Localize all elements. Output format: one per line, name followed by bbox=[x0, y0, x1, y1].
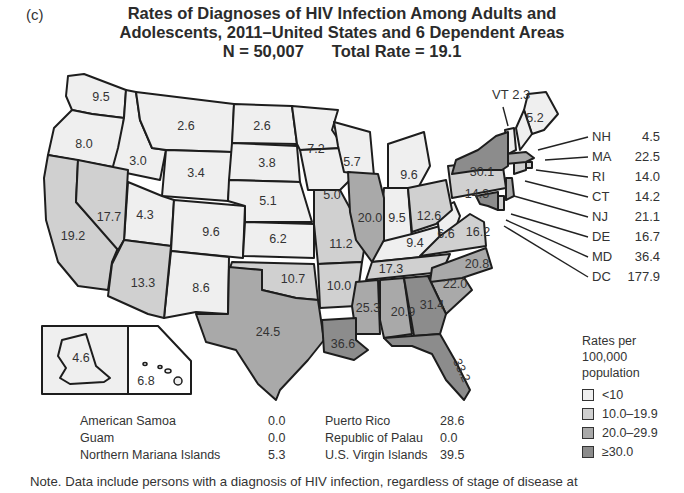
label-OH: 12.6 bbox=[417, 209, 441, 223]
label-AZ: 13.3 bbox=[131, 276, 155, 290]
label-SD: 3.8 bbox=[258, 156, 275, 170]
label-NM: 8.6 bbox=[192, 281, 209, 295]
callout-DC: DC177.9 bbox=[592, 269, 660, 284]
label-AL: 20.9 bbox=[391, 305, 415, 319]
territories-left: American Samoa0.0 Guam0.0 Northern Maria… bbox=[80, 414, 285, 465]
label-ID: 3.0 bbox=[129, 154, 146, 168]
label-CO: 9.6 bbox=[202, 225, 219, 239]
legend-swatch-icon bbox=[582, 389, 594, 401]
legend-swatch-icon bbox=[582, 427, 594, 439]
label-ME: 5.2 bbox=[526, 111, 543, 125]
label-ND: 2.6 bbox=[253, 119, 270, 133]
callout-RI: RI14.0 bbox=[592, 169, 660, 184]
territories-right: Puerto Rico28.6 Republic of Palau0.0 U.S… bbox=[325, 414, 464, 465]
territory-row: American Samoa0.0 bbox=[80, 414, 285, 431]
label-UT: 4.3 bbox=[136, 208, 153, 222]
label-WA: 9.5 bbox=[92, 90, 109, 104]
label-WY: 3.4 bbox=[187, 166, 204, 180]
legend: Rates per 100,000 population <10 10.0–19… bbox=[582, 333, 658, 461]
label-MI: 9.6 bbox=[400, 168, 417, 182]
label-NC: 20.8 bbox=[465, 257, 489, 271]
label-LA: 36.6 bbox=[331, 337, 355, 351]
callout-arrows bbox=[503, 107, 588, 277]
label-OK: 10.7 bbox=[281, 272, 305, 286]
label-MS: 25.3 bbox=[356, 301, 380, 315]
state-NJ bbox=[506, 178, 514, 200]
territory-row: Guam0.0 bbox=[80, 431, 285, 448]
legend-swatch-icon bbox=[582, 408, 594, 420]
label-CA: 19.2 bbox=[61, 229, 85, 243]
territory-row: Northern Mariana Islands5.3 bbox=[80, 448, 285, 465]
label-PA: 14.3 bbox=[465, 187, 489, 201]
callout-MA: MA22.5 bbox=[592, 149, 660, 164]
label-IA: 5.0 bbox=[323, 188, 340, 202]
label-IN: 9.5 bbox=[388, 211, 405, 225]
label-NV: 17.7 bbox=[97, 210, 121, 224]
label-TN: 17.3 bbox=[379, 262, 403, 276]
label-IL: 20.0 bbox=[358, 211, 382, 225]
label-OR: 8.0 bbox=[75, 137, 92, 151]
territory-row: U.S. Virgin Islands39.5 bbox=[325, 448, 464, 465]
callout-MD: MD36.4 bbox=[592, 249, 660, 264]
legend-swatch-icon bbox=[582, 446, 594, 458]
label-MT: 2.6 bbox=[177, 119, 194, 133]
legend-item-10-19: 10.0–19.9 bbox=[582, 404, 658, 423]
label-KY: 9.4 bbox=[406, 236, 423, 250]
label-GA: 31.4 bbox=[420, 298, 444, 312]
label-VA: 16.2 bbox=[466, 225, 490, 239]
territory-row: Puerto Rico28.6 bbox=[325, 414, 464, 431]
legend-header: Rates per 100,000 population bbox=[582, 333, 658, 381]
footnote: Note. Data include persons with a diagno… bbox=[30, 474, 578, 489]
state-HI bbox=[174, 377, 182, 385]
label-HI: 6.8 bbox=[137, 374, 154, 388]
callout-NJ: NJ21.1 bbox=[592, 209, 660, 224]
legend-item-ge30: ≥30.0 bbox=[582, 442, 658, 461]
label-WV: 6.6 bbox=[437, 227, 454, 241]
callout-VT: VT 2.3 bbox=[492, 87, 530, 102]
label-AR: 10.0 bbox=[327, 279, 351, 293]
label-TX: 24.5 bbox=[256, 325, 280, 339]
label-WI: 5.7 bbox=[343, 155, 360, 169]
callout-CT: CT14.2 bbox=[592, 189, 660, 204]
callout-DE: DE16.7 bbox=[592, 229, 660, 244]
label-KS: 6.2 bbox=[269, 232, 286, 246]
territory-row: Republic of Palau0.0 bbox=[325, 431, 464, 448]
callout-NH: NH4.5 bbox=[592, 129, 660, 144]
legend-item-20-29: 20.0–29.9 bbox=[582, 423, 658, 442]
label-MO: 11.2 bbox=[329, 237, 352, 251]
label-MN: 7.2 bbox=[307, 142, 324, 156]
label-AK: 4.6 bbox=[72, 351, 89, 365]
label-NY: 30.1 bbox=[470, 165, 494, 179]
legend-item-lt10: <10 bbox=[582, 385, 658, 404]
label-SC: 22.0 bbox=[443, 277, 467, 291]
label-NE: 5.1 bbox=[259, 194, 276, 208]
